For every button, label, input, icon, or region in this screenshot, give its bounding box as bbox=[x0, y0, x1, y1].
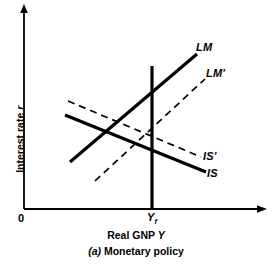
figure-caption-text: Monetary policy bbox=[104, 245, 184, 257]
axes-group bbox=[20, 4, 267, 213]
x-axis-title-main: Real GNP bbox=[107, 229, 155, 241]
curve-label-lm: LM bbox=[196, 42, 212, 53]
figure-caption: (a) Monetary policy bbox=[36, 246, 236, 257]
curve-label-lm-prime: LM' bbox=[206, 68, 225, 79]
y-axis-title: Interest rate r bbox=[15, 79, 26, 199]
yf-subscript: f bbox=[154, 217, 157, 226]
y-axis-arrowhead bbox=[20, 4, 28, 13]
origin-label: 0 bbox=[18, 213, 24, 224]
x-axis-title-variable: Y bbox=[158, 229, 165, 241]
x-axis-arrowhead bbox=[257, 205, 267, 213]
x-axis-title: Real GNP Y bbox=[36, 230, 236, 241]
figure-caption-prefix: (a) bbox=[88, 245, 101, 257]
is-lm-monetary-policy-figure: LM LM' IS' IS Interest rate r 0 Yf Real … bbox=[0, 0, 272, 269]
y-axis-title-main: Interest rate bbox=[14, 113, 26, 173]
x-tick-label-yf: Yf bbox=[136, 212, 168, 226]
curve-label-is: IS bbox=[207, 168, 218, 179]
curve-label-is-prime: IS' bbox=[203, 151, 217, 162]
curve-is bbox=[65, 115, 206, 172]
y-axis-title-variable: r bbox=[14, 106, 26, 110]
